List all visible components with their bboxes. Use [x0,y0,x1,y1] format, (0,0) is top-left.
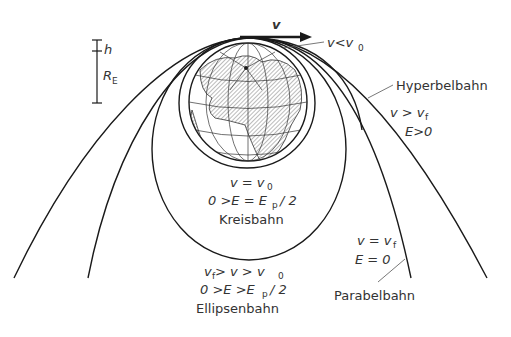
ellipse-cond2: 0 >E >E [200,282,256,297]
ellipse-cond1: v [204,264,212,279]
earth-globe [189,43,307,165]
hyperbola-cond2: E>0 [405,124,432,139]
inner-orbit-sub: 0 [358,43,364,53]
orbit-diagram: h R E [0,0,511,337]
ellipse-name: Ellipsenbahn [196,301,279,316]
scale-r-sub: E [112,76,118,86]
circle-name: Kreisbahn [219,212,284,227]
ellipse-cond2-sub: p [262,289,268,299]
hyperbola-cond1-sub: f [425,112,429,122]
parabola-cond2: E = 0 [355,252,391,267]
ellipse-cond1-sub2: 0 [278,271,284,281]
hyperbola-cond1: v > v [390,105,425,120]
parabola-cond1: v = v [357,233,392,248]
scale-bar [92,40,102,103]
circle-cond1: v = v [230,175,265,190]
hyperbola-name: Hyperbelbahn [396,78,488,93]
circle-cond2-sub: p [272,200,278,210]
parabola-name: Parabelbahn [334,288,415,303]
circle-cond2: 0 >E = E [208,193,268,208]
scale-r-label: R [103,68,112,83]
circle-cond1-sub: 0 [267,182,273,192]
ellipse-cond2-tail: / 2 [269,282,287,297]
ellipse-cond1-mid: > v > v [215,264,265,279]
inner-orbit-label: v<v [327,35,354,50]
scale-h-label: h [104,42,112,57]
circle-cond2-tail: / 2 [279,193,297,208]
parabola-cond1-sub: f [393,240,397,250]
velocity-label: v [272,17,281,32]
